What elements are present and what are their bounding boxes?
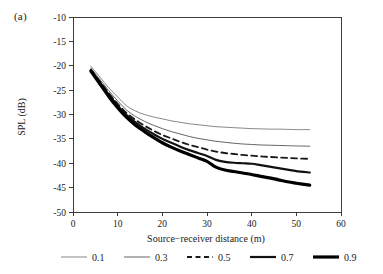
legend-item-0.3: 0.3	[124, 252, 168, 263]
y-tick-label: -30	[53, 110, 66, 120]
x-tick-label: 0	[71, 219, 76, 229]
y-tick-label: -50	[53, 208, 66, 218]
x-tick-label: 40	[247, 219, 257, 229]
x-tick-label: 10	[113, 219, 123, 229]
legend-label-0.7: 0.7	[281, 252, 294, 263]
x-tick-label: 60	[336, 219, 346, 229]
x-tick-label: 50	[292, 219, 302, 229]
x-tick-label: 20	[158, 219, 168, 229]
legend-label-0.3: 0.3	[155, 252, 168, 263]
legend-label-0.9: 0.9	[344, 252, 357, 263]
x-tick-label: 30	[202, 219, 212, 229]
y-tick-label: -20	[53, 61, 66, 71]
series-line-0.1	[91, 66, 310, 129]
legend-label-0.5: 0.5	[218, 252, 231, 263]
y-tick-label: -35	[53, 134, 66, 144]
legend-item-0.7: 0.7	[250, 252, 294, 263]
series-line-0.3	[91, 68, 310, 146]
chart-legend: 0.10.30.50.70.9	[61, 252, 357, 263]
spl-vs-distance-chart: 0102030405060 -10-15-20-25-30-35-40-45-5…	[0, 0, 383, 274]
legend-item-0.9: 0.9	[313, 252, 357, 263]
series-lines	[91, 66, 310, 185]
y-tick-label: -25	[53, 86, 66, 96]
legend-label-0.1: 0.1	[92, 252, 105, 263]
legend-item-0.1: 0.1	[61, 252, 105, 263]
panel-label: (a)	[14, 10, 27, 22]
legend-item-0.5: 0.5	[187, 252, 231, 263]
x-axis-ticks: 0102030405060	[71, 212, 346, 229]
y-tick-label: -10	[53, 13, 66, 23]
y-tick-label: -40	[53, 159, 66, 169]
x-axis-title: Source−receiver distance (m)	[147, 233, 265, 245]
figure-panel: (a) 0102030405060 -10-15-20-25-30-35-40-…	[0, 0, 383, 274]
y-tick-label: -45	[53, 183, 66, 193]
y-tick-label: -15	[53, 37, 66, 47]
y-axis-title: SPL (dB)	[16, 98, 28, 136]
y-axis-ticks: -10-15-20-25-30-35-40-45-50	[53, 13, 73, 218]
